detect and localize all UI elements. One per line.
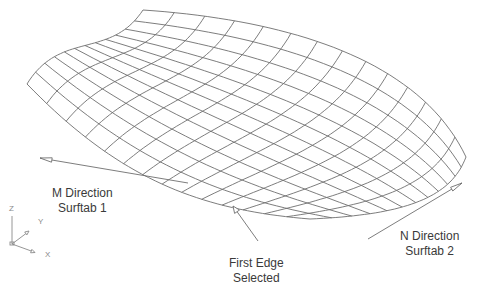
ucs-icon — [10, 216, 35, 253]
n-direction-label: N Direction Surftab 2 — [400, 229, 459, 259]
mesh-line-m — [95, 43, 428, 198]
m-direction-arrow-line — [40, 158, 188, 183]
mesh-line-m — [75, 48, 403, 207]
ucs-x-arrowhead-icon — [31, 249, 35, 252]
first-edge-line1: First Edge — [229, 256, 284, 271]
first-edge-label: First Edge Selected — [229, 256, 284, 286]
mesh-line-m — [85, 46, 416, 203]
mesh-line-n — [265, 119, 442, 214]
m-direction-label: M Direction Surftab 1 — [52, 186, 113, 216]
mesh-line-m — [64, 52, 387, 211]
m-direction-line1: M Direction — [52, 186, 113, 201]
first-edge-line2: Selected — [229, 271, 284, 286]
n-direction-line2: Surftab 2 — [400, 244, 459, 259]
mesh-line-m — [143, 10, 466, 157]
ucs-y-label: Y — [38, 217, 43, 226]
m-direction-arrowhead-icon — [40, 158, 52, 162]
n-direction-line1: N Direction — [400, 229, 459, 244]
ucs-x-label: X — [45, 250, 50, 259]
mesh-line-n — [47, 13, 175, 104]
m-direction-line2: Surftab 1 — [52, 201, 113, 216]
ucs-x-axis — [12, 244, 34, 252]
mesh-line-n — [27, 10, 143, 84]
mesh-line-n — [310, 157, 466, 219]
ucs-z-label: Z — [9, 204, 14, 213]
n-direction-arrowhead-icon — [451, 183, 462, 191]
first-edge-arrowhead-icon — [233, 206, 240, 213]
